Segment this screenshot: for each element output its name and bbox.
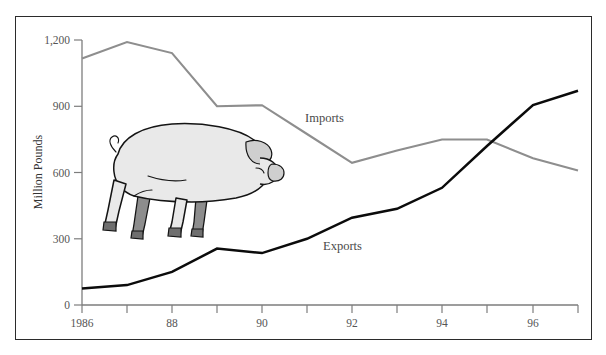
x-tick-label-88: 88	[166, 317, 178, 329]
chart-figure: 1,200 900 600 300 0 Million Pounds 1986 …	[0, 0, 606, 355]
y-tick-label-900: 900	[53, 100, 71, 112]
y-axis-ticks	[74, 40, 82, 305]
x-axis-ticks	[82, 305, 578, 313]
y-tick-label-600: 600	[53, 167, 71, 179]
x-tick-label-1986: 1986	[71, 317, 94, 329]
x-tick-label-96: 96	[527, 317, 539, 329]
series-label-exports: Exports	[323, 239, 362, 253]
x-axis-tick-labels: 1986 88 90 92 94 96	[71, 317, 540, 329]
y-tick-label-300: 300	[53, 233, 71, 245]
x-tick-label-90: 90	[256, 317, 268, 329]
x-tick-label-92: 92	[346, 317, 358, 329]
y-axis-tick-labels: 1,200 900 600 300 0	[44, 34, 70, 311]
y-tick-label-0: 0	[64, 299, 70, 311]
pig-illustration	[103, 124, 284, 239]
series-label-imports: Imports	[305, 111, 344, 125]
y-tick-label-1200: 1,200	[44, 34, 70, 47]
x-tick-label-94: 94	[436, 317, 448, 329]
y-axis-title: Million Pounds	[31, 135, 45, 210]
line-chart: 1,200 900 600 300 0 Million Pounds 1986 …	[0, 0, 606, 355]
